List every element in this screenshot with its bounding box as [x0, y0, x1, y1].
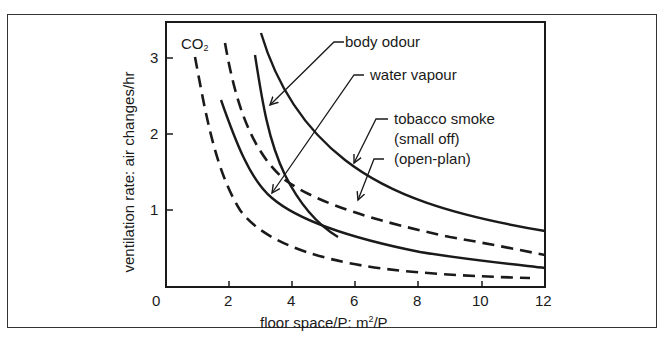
y-axis-label: ventilation rate: air changes/hr [120, 72, 137, 273]
x-tick-10: 10 [472, 293, 489, 308]
y-tick-1: 1 [150, 202, 158, 217]
y-axis-ticks [166, 58, 173, 210]
y-tick-3: 3 [150, 50, 158, 65]
water-vapour-curve [255, 55, 338, 237]
x-axis-label: floor space/P: m2/P [260, 314, 388, 331]
x-tick-0: 0 [152, 293, 160, 308]
small-office-label: (small off) [394, 131, 460, 146]
x-tick-12: 12 [535, 293, 552, 308]
tobacco-smoke-label: tobacco smoke [394, 111, 495, 126]
water-vapour-label: water vapour [370, 67, 457, 82]
x-tick-8: 8 [413, 293, 421, 308]
body-odour-label: body odour [345, 34, 420, 49]
x-tick-4: 4 [287, 293, 295, 308]
y-tick-2: 2 [150, 126, 158, 141]
plot-area [166, 22, 545, 287]
chart-plot [0, 0, 667, 339]
co2-label: CO2 [181, 36, 209, 53]
co2-curve [195, 57, 530, 278]
x-tick-6: 6 [350, 293, 358, 308]
x-tick-2: 2 [224, 293, 232, 308]
open-plan-label: (open-plan) [394, 151, 471, 166]
